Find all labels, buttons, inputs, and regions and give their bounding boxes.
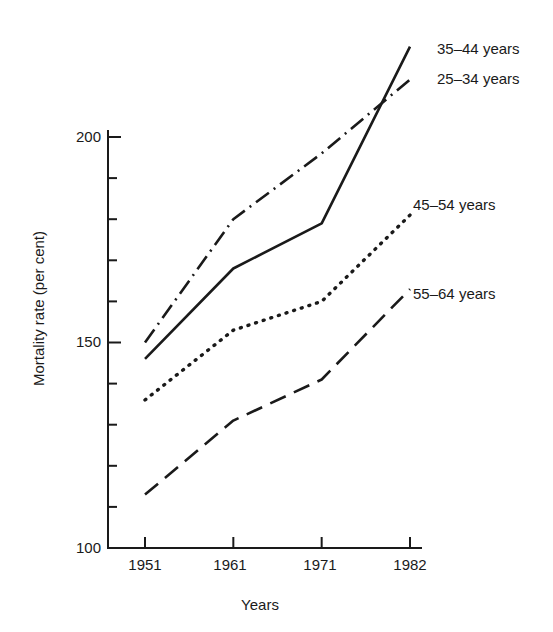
plot-area xyxy=(0,0,553,632)
series-line-25-34 xyxy=(145,80,410,343)
y-axis-ticks xyxy=(108,137,121,548)
data-series-group xyxy=(145,47,410,495)
series-line-35-44 xyxy=(145,47,410,359)
series-line-45-54 xyxy=(145,215,410,400)
x-axis-ticks xyxy=(145,537,410,548)
chart-figure: Mortality rate (per cent) Years 200 150 … xyxy=(0,0,553,632)
